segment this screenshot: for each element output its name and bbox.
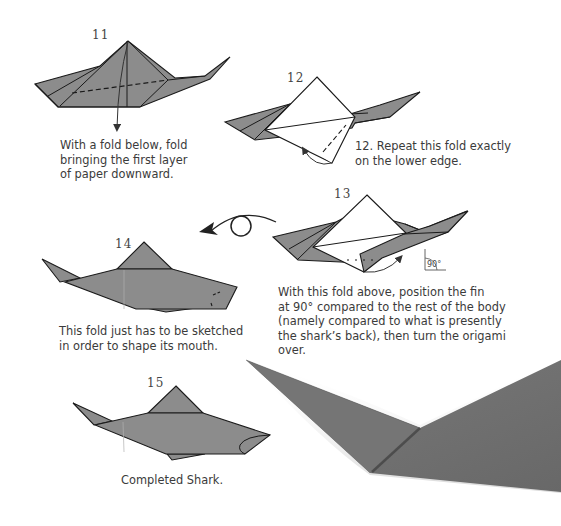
step-15-caption: Completed Shark. [121, 473, 321, 488]
step-number-11: 11 [92, 28, 109, 42]
step-14-diagram [42, 242, 237, 312]
right-angle-label: 90° [427, 260, 441, 269]
step-number-12: 12 [287, 71, 304, 85]
step-number-15: 15 [147, 376, 164, 390]
step-number-13: 13 [334, 187, 351, 201]
step-12-caption: 12. Repeat this fold exactly on the lowe… [355, 139, 555, 168]
step-13-caption: With this fold above, position the fin a… [278, 285, 558, 358]
diagram-canvas [0, 0, 561, 526]
step-11-diagram [35, 41, 230, 128]
turn-over-arrow-icon [199, 215, 276, 236]
step-15-diagram [73, 386, 270, 460]
step-number-14: 14 [115, 237, 132, 251]
origami-instruction-page: 11 12 13 14 15 With a fold below, fold b… [0, 0, 561, 526]
step-11-caption: With a fold below, fold bringing the fir… [60, 138, 260, 182]
step-14-caption: This fold just has to be sketched in ord… [59, 324, 289, 353]
